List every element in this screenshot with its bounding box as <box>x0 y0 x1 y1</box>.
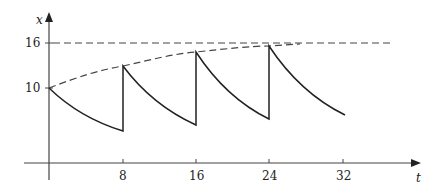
y-axis-label: x <box>36 13 43 27</box>
peak-envelope-dashed-curve <box>49 44 300 88</box>
y-axis-arrow-icon <box>45 12 53 22</box>
chart: x 16 10 8 16 24 32 t <box>0 0 439 195</box>
x-tick-label-16: 16 <box>189 169 204 183</box>
x-tick-label-24: 24 <box>262 169 278 183</box>
x-tick-label-8: 8 <box>119 169 127 183</box>
y-tick-label-16: 16 <box>25 36 40 50</box>
sawtooth-solid-curve <box>49 46 345 131</box>
y-tick-label-10: 10 <box>25 81 40 95</box>
x-tick-label-32: 32 <box>336 169 351 183</box>
axes <box>24 14 418 180</box>
x-axis-arrow-icon <box>411 159 421 167</box>
x-axis-label: t <box>416 171 421 185</box>
ticks <box>45 43 343 163</box>
